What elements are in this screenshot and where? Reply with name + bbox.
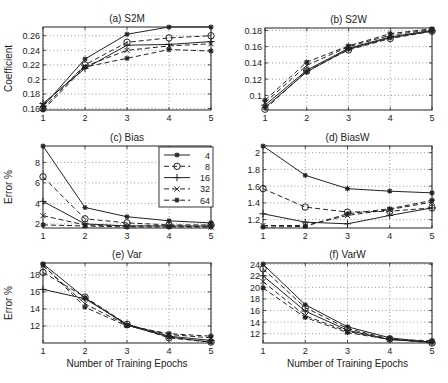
x-tick-label: 5 bbox=[208, 113, 213, 123]
panel-title: (e) Var bbox=[112, 249, 142, 260]
x-tick-label: 4 bbox=[166, 231, 171, 241]
x-tick-label: 3 bbox=[345, 231, 350, 241]
x-tick-label: 1 bbox=[260, 231, 265, 241]
y-tick-label: 16 bbox=[250, 306, 260, 316]
x-tick-label: 2 bbox=[304, 113, 309, 123]
y-tick-label: 6 bbox=[35, 178, 40, 188]
y-tick-label: 0.24 bbox=[22, 46, 40, 56]
y-tick-label: 0.18 bbox=[244, 26, 262, 36]
x-tick-label: 5 bbox=[429, 346, 434, 356]
x-tick-label: 1 bbox=[262, 113, 267, 123]
panel-6: 1214161820222412345(f) VarWNumber of Tra… bbox=[250, 249, 436, 369]
axes-box bbox=[265, 28, 432, 110]
y-axis-label: Error % bbox=[3, 286, 14, 320]
y-tick-label: 1.2 bbox=[247, 215, 260, 225]
x-tick-label: 5 bbox=[429, 231, 434, 241]
y-tick-label: 8 bbox=[35, 158, 40, 168]
x-tick-label: 4 bbox=[387, 346, 392, 356]
y-tick-label: 1.4 bbox=[247, 198, 260, 208]
legend-label: 4 bbox=[205, 151, 210, 161]
x-tick-label: 3 bbox=[346, 113, 351, 123]
y-tick-label: 14 bbox=[30, 304, 40, 314]
panel-2: 0.10.120.140.160.1812345(b) S2W bbox=[244, 14, 435, 123]
x-tick-label: 4 bbox=[166, 113, 171, 123]
y-tick-label: 14 bbox=[250, 318, 260, 328]
series-64 bbox=[260, 285, 434, 343]
x-axis-label: Number of Training Epochs bbox=[66, 358, 187, 369]
x-tick-label: 3 bbox=[124, 231, 129, 241]
y-tick-label: 1.6 bbox=[247, 182, 260, 192]
y-tick-label: 0.2 bbox=[27, 75, 40, 85]
panel-title: (c) Bias bbox=[110, 132, 144, 143]
y-tick-label: 12 bbox=[250, 329, 260, 339]
y-axis-label: Error % bbox=[3, 170, 14, 204]
x-tick-label: 5 bbox=[429, 113, 434, 123]
y-tick-label: 2 bbox=[255, 148, 260, 158]
y-tick-label: 0.1 bbox=[249, 91, 262, 101]
y-tick-label: 0.18 bbox=[22, 89, 40, 99]
y-tick-label: 0.12 bbox=[244, 75, 262, 85]
y-tick-label: 22 bbox=[250, 271, 260, 281]
legend: 48163264 bbox=[159, 147, 213, 207]
y-tick-label: 12 bbox=[30, 321, 40, 331]
y-tick-label: 0.16 bbox=[22, 104, 40, 114]
x-tick-label: 1 bbox=[40, 113, 45, 123]
panel-title: (a) S2M bbox=[109, 13, 145, 24]
y-tick-label: 0.16 bbox=[244, 42, 262, 52]
x-tick-label: 4 bbox=[166, 346, 171, 356]
x-tick-label: 5 bbox=[208, 346, 213, 356]
x-tick-label: 2 bbox=[82, 113, 87, 123]
y-tick-label: 1.8 bbox=[247, 165, 260, 175]
y-tick-label: 0.14 bbox=[244, 58, 262, 68]
panel-5: 1214161812345(e) VarError %Number of Tra… bbox=[3, 249, 215, 369]
x-tick-label: 4 bbox=[388, 113, 393, 123]
x-tick-label: 4 bbox=[387, 231, 392, 241]
y-tick-label: 18 bbox=[30, 270, 40, 280]
x-tick-label: 2 bbox=[303, 346, 308, 356]
y-tick-label: 0.26 bbox=[22, 31, 40, 41]
y-tick-label: 20 bbox=[250, 283, 260, 293]
y-axis-label: Coefficient bbox=[3, 45, 14, 92]
legend-label: 8 bbox=[205, 162, 210, 172]
x-tick-label: 1 bbox=[40, 231, 45, 241]
panel-title: (d) BiasW bbox=[326, 132, 370, 143]
y-tick-label: 0.22 bbox=[22, 60, 40, 70]
panel-1: 0.160.180.20.220.240.2612345(a) S2MCoeff… bbox=[3, 13, 215, 123]
x-tick-label: 2 bbox=[303, 231, 308, 241]
panel-4: 1.21.41.61.8212345(d) BiasW bbox=[247, 132, 435, 241]
x-tick-label: 1 bbox=[40, 346, 45, 356]
panel-title: (b) S2W bbox=[330, 14, 367, 25]
x-tick-label: 2 bbox=[82, 346, 87, 356]
legend-label: 64 bbox=[200, 196, 210, 206]
y-tick-label: 24 bbox=[250, 260, 260, 270]
x-tick-label: 2 bbox=[82, 231, 87, 241]
x-tick-label: 3 bbox=[124, 346, 129, 356]
series-4 bbox=[262, 29, 434, 111]
y-tick-label: 2 bbox=[35, 219, 40, 229]
y-tick-label: 16 bbox=[30, 287, 40, 297]
legend-label: 16 bbox=[200, 173, 210, 183]
y-tick-label: 4 bbox=[35, 199, 40, 209]
panel-title: (f) VarW bbox=[329, 249, 366, 260]
figure: 0.160.180.20.220.240.2612345(a) S2MCoeff… bbox=[0, 0, 448, 383]
legend-label: 32 bbox=[200, 184, 210, 194]
x-tick-label: 3 bbox=[345, 346, 350, 356]
x-axis-label: Number of Training Epochs bbox=[287, 358, 408, 369]
x-tick-label: 1 bbox=[260, 346, 265, 356]
y-tick-label: 18 bbox=[250, 294, 260, 304]
x-tick-label: 5 bbox=[208, 231, 213, 241]
x-tick-label: 3 bbox=[124, 113, 129, 123]
